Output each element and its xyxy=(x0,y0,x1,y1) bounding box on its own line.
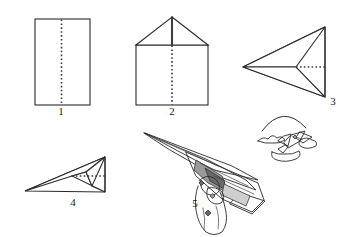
step-5-figure xyxy=(144,133,265,235)
flying-plane-right-wing xyxy=(296,132,312,143)
hand-palm-outline xyxy=(195,186,226,235)
hand-detail-mark-1 xyxy=(205,210,211,216)
step-2-figure xyxy=(136,17,208,105)
step-3-label: 3 xyxy=(330,95,336,107)
motion-cloud-bottom xyxy=(272,151,300,161)
step-4-label: 4 xyxy=(70,196,76,208)
step-4-figure xyxy=(25,157,105,192)
left-folded-corner-triangle xyxy=(136,17,172,45)
step-1-label: 1 xyxy=(58,105,64,117)
step-1-figure xyxy=(35,19,90,105)
flying-plane-tail-fin xyxy=(278,145,288,153)
hand-wrist-line xyxy=(203,208,205,230)
step-3-figure xyxy=(243,27,325,97)
wing-underside-shading xyxy=(222,184,250,206)
flight-illustration xyxy=(258,116,317,161)
diagram-canvas: 1 2 3 xyxy=(0,0,358,237)
hand-knuckle-line xyxy=(216,206,219,229)
flight-trajectory-arc xyxy=(262,116,306,131)
folding-instruction-diagram: 1 2 3 xyxy=(0,0,358,237)
step-5-label: 5 xyxy=(192,197,198,209)
paper-sheet-outline xyxy=(35,19,90,105)
right-folded-corner-triangle xyxy=(172,17,208,45)
fuselage-crease-detail xyxy=(160,140,218,166)
step-2-label: 2 xyxy=(169,105,175,117)
